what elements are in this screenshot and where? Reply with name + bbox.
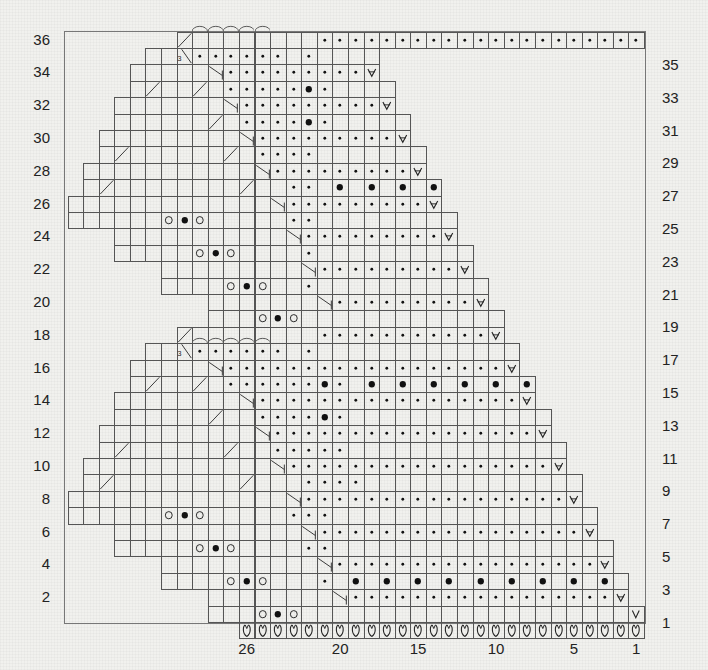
chart-cell [208, 278, 225, 295]
purl-dot-icon [348, 294, 364, 310]
chart-cell [223, 196, 240, 213]
chart-cell [364, 48, 381, 65]
purl-dot-icon [301, 491, 317, 507]
chart-cell [441, 212, 458, 229]
purl-dot-icon [504, 32, 520, 48]
bobble-icon [270, 606, 286, 622]
purl-dot-icon [332, 130, 348, 146]
chart-cell [566, 507, 583, 524]
chart-cell [348, 310, 365, 327]
purl-dot-icon [410, 491, 426, 507]
chart-cell [145, 343, 162, 360]
chart-cell [177, 540, 194, 557]
purl-dot-icon [317, 491, 333, 507]
bobble-icon [177, 212, 193, 228]
chart-cell [551, 606, 568, 623]
purl-dot-icon [426, 556, 442, 572]
purl-dot-icon [364, 196, 380, 212]
chart-cell [348, 245, 365, 262]
purl-dot-icon [317, 163, 333, 179]
purl-dot-icon [286, 212, 302, 228]
chart-cell [286, 278, 303, 295]
purl-dot-icon [457, 491, 473, 507]
chart-cell [566, 606, 583, 623]
purl-dot-icon [286, 130, 302, 146]
purl-dot-icon [332, 327, 348, 343]
purl-dot-icon [301, 179, 317, 195]
chart-cell [161, 130, 178, 147]
bobble-icon [301, 114, 317, 130]
purl-dot-icon [192, 48, 208, 64]
chart-cell [410, 474, 427, 491]
chart-cell [192, 32, 209, 49]
purl-dot-icon [364, 261, 380, 277]
bobble-icon [239, 278, 255, 294]
chart-cell [488, 310, 505, 327]
chart-cell [286, 32, 303, 49]
cast-on-icon [364, 622, 380, 638]
bobble-icon [535, 573, 551, 589]
column-label: 10 [481, 640, 511, 657]
chart-cell [488, 343, 505, 360]
purl-dot-icon [379, 556, 395, 572]
purl-dot-icon [364, 294, 380, 310]
purl-dot-icon [348, 97, 364, 113]
row-label-left: 6 [20, 523, 50, 540]
chart-cell [270, 556, 287, 573]
purl-dot-icon [364, 97, 380, 113]
chart-cell [114, 196, 131, 213]
chart-cell [255, 540, 272, 557]
chart-cell [177, 376, 194, 393]
chart-cell [130, 146, 147, 163]
chart-cell [551, 573, 568, 590]
chart-cell [239, 310, 256, 327]
chart-cell [535, 442, 552, 459]
chart-cell [317, 278, 334, 295]
chart-cell [317, 589, 334, 606]
row-label-right: 31 [662, 122, 692, 139]
chart-cell [379, 81, 396, 98]
chart-cell [410, 606, 427, 623]
chart-cell [208, 606, 225, 623]
purl-dot-icon [208, 343, 224, 359]
chart-cell [348, 81, 365, 98]
chart-cell [270, 327, 287, 344]
chart-cell [410, 245, 427, 262]
chart-cell [488, 442, 505, 459]
chart-cell [535, 474, 552, 491]
chart-cell [504, 507, 521, 524]
purl-dot-icon [364, 163, 380, 179]
row-label-left: 16 [20, 359, 50, 376]
purl-dot-icon [441, 294, 457, 310]
chart-cell [286, 540, 303, 557]
purl-dot-icon [519, 589, 535, 605]
svg-text:3: 3 [177, 349, 181, 358]
chart-cell [255, 327, 272, 344]
chart-cell [208, 130, 225, 147]
k2tog-icon [223, 442, 239, 458]
chart-cell [192, 573, 209, 590]
k2tog-icon [145, 81, 161, 97]
purl-dot-icon [301, 278, 317, 294]
k2tog-icon [99, 179, 115, 195]
chart-cell [473, 409, 490, 426]
chart-cell [255, 507, 272, 524]
chart-cell [208, 179, 225, 196]
k2tog-icon [192, 81, 208, 97]
chart-cell [441, 376, 458, 393]
cast-on-icon [317, 622, 333, 638]
yarn-over-icon [255, 310, 271, 326]
chart-cell [145, 64, 162, 81]
chart-cell [332, 146, 349, 163]
purl-dot-icon [426, 589, 442, 605]
ssk-icon [255, 163, 271, 179]
chart-cell [270, 589, 287, 606]
bobble-icon [597, 573, 613, 589]
cast-on-icon [270, 622, 286, 638]
chart-cell [223, 130, 240, 147]
purl-dot-icon [301, 212, 317, 228]
chart-cell [161, 556, 178, 573]
chart-cell [348, 442, 365, 459]
purl-dot-icon [519, 556, 535, 572]
purl-dot-icon [301, 442, 317, 458]
